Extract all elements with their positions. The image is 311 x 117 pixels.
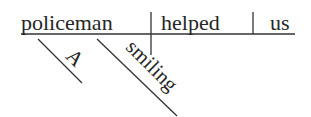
sentence-diagram: policeman helped us A smiling: [0, 0, 311, 117]
subject-word: policeman: [21, 12, 113, 34]
verb-word: helped: [161, 12, 220, 34]
direct-object-word: us: [270, 12, 290, 34]
